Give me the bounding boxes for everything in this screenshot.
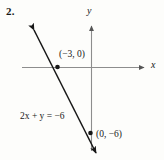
coordinate-plane-svg <box>0 0 164 160</box>
point-label-y-intercept: (0, −6) <box>96 130 122 140</box>
graph-figure: 2. x y (−3, 0) (0, −6) 2x + y = −6 <box>0 0 164 160</box>
equation-label: 2x + y = −6 <box>20 112 65 122</box>
point-marker-y-intercept <box>88 131 93 136</box>
point-marker-x-intercept <box>55 65 60 70</box>
x-axis-label: x <box>151 60 155 70</box>
y-axis-label: y <box>87 6 91 16</box>
problem-number: 2. <box>6 6 15 17</box>
point-label-x-intercept: (−3, 0) <box>59 50 85 60</box>
